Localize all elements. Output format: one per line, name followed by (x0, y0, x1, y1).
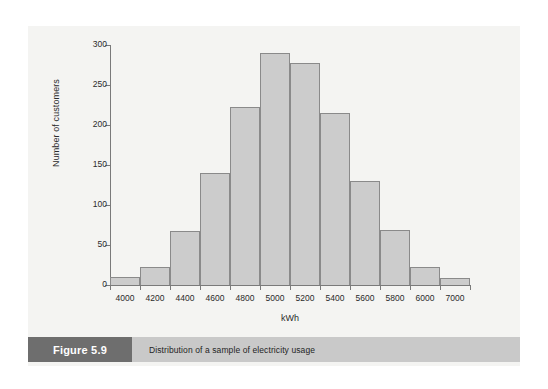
x-tick-mark (440, 285, 441, 290)
histogram-bar (200, 173, 230, 285)
x-tick-mark (140, 285, 141, 290)
x-tick-mark (110, 285, 111, 290)
histogram-bar (440, 278, 470, 285)
y-tick-label: 50 (98, 239, 107, 249)
histogram-bar (260, 53, 290, 285)
x-tick-label: 7000 (446, 293, 465, 303)
histogram-bar (170, 231, 200, 285)
y-tick-label: 200 (93, 119, 107, 129)
x-tick-mark (230, 285, 231, 290)
histogram-bar (350, 181, 380, 285)
x-tick-mark (290, 285, 291, 290)
x-tick-label: 5400 (326, 293, 345, 303)
x-tick-label: 4600 (206, 293, 225, 303)
x-tick-mark (350, 285, 351, 290)
x-tick-mark (170, 285, 171, 290)
x-tick-mark (380, 285, 381, 290)
chart-plot-block: Number of customers 050100150200250300 4… (28, 26, 520, 331)
y-tick-label: 100 (93, 199, 107, 209)
x-tick-mark-end (470, 285, 471, 290)
x-tick-mark (260, 285, 261, 290)
plot-canvas: 050100150200250300 400042004400460048005… (110, 45, 470, 285)
y-axis-line (110, 45, 111, 285)
x-tick-label: 5000 (266, 293, 285, 303)
histogram-bar (410, 267, 440, 285)
y-tick-label: 150 (93, 159, 107, 169)
x-tick-mark (320, 285, 321, 290)
y-tick-label: 250 (93, 79, 107, 89)
histogram-bar (320, 113, 350, 285)
x-tick-label: 5600 (356, 293, 375, 303)
x-axis-title: kWh (110, 313, 470, 323)
x-tick-label: 6000 (416, 293, 435, 303)
histogram-bar (290, 63, 320, 285)
x-tick-label: 5800 (386, 293, 405, 303)
y-tick-label: 300 (93, 39, 107, 49)
histogram-bar (230, 107, 260, 285)
figure-caption-bar: Figure 5.9 Distribution of a sample of e… (28, 337, 520, 362)
x-tick-label: 4200 (146, 293, 165, 303)
x-tick-label: 4800 (236, 293, 255, 303)
figure-container: Number of customers 050100150200250300 4… (0, 0, 548, 389)
figure-caption-text: Distribution of a sample of electricity … (132, 337, 520, 362)
figure-number-tag: Figure 5.9 (28, 337, 132, 362)
y-axis-title: Number of customers (51, 53, 61, 193)
x-tick-label: 4400 (176, 293, 195, 303)
x-tick-mark (410, 285, 411, 290)
y-tick-label: 0 (102, 279, 107, 289)
histogram-bar (110, 277, 140, 285)
x-tick-label: 4000 (116, 293, 135, 303)
x-tick-label: 5200 (296, 293, 315, 303)
histogram-bar (140, 267, 170, 285)
x-tick-mark (200, 285, 201, 290)
histogram-bar (380, 230, 410, 285)
